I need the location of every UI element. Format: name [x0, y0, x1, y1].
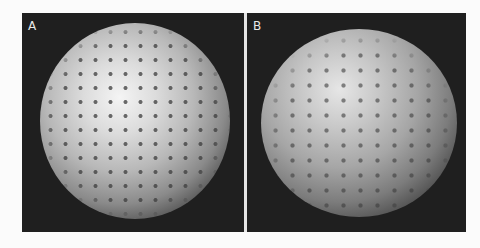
- sphere-image-a: [40, 23, 230, 219]
- panel-label-b: B: [253, 20, 261, 32]
- figure: A B: [22, 13, 466, 232]
- panel-label-a: A: [28, 20, 36, 32]
- sphere-image-b: [261, 29, 457, 217]
- dot-lattice-b: [261, 29, 457, 217]
- dot-lattice-a: [40, 23, 230, 219]
- panel-a: A: [22, 13, 244, 232]
- panel-b: B: [247, 13, 466, 232]
